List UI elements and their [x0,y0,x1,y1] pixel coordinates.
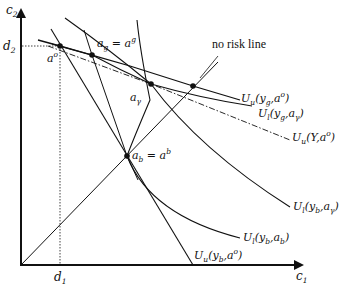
no-risk-line-pointer [200,56,218,78]
label-Ul-yb-ab: Ul(yb,ab) [243,232,289,243]
x-axis-label: c1 [296,270,308,282]
y-axis-label: c2 [6,4,18,16]
label-Uu-Y-ao: Uu(Y,ao) [292,132,335,143]
no-risk-line-label: no risk line [212,38,266,50]
no-risk-line [21,62,218,265]
diagram-graphics [0,0,342,290]
point-a-b [124,153,130,159]
indifference-curve-diagram: c2 c1 d2 d1 ao ag = ag aγ ab = ab no ris… [0,0,342,290]
a-o-label: ao [47,53,58,64]
label-Uu-yb-ao: Uu(yb,ao) [194,250,242,261]
point-a-g [89,52,95,58]
point-no-risk-Uu [190,83,196,89]
curve-Uu-yb-ao [51,29,193,265]
point-a-gamma [148,81,154,87]
label-Ul-yb-agamma: Ul(yb,aγ) [293,201,339,212]
curve-Ul-yb-ab [127,20,240,238]
label-Ul-yg-agamma: Ul(yg,aγ) [258,108,304,119]
label-Uu-yg-ao: Uu(yg,ao) [241,93,289,104]
a-b-label: ab = ab [132,150,171,161]
point-a-o [57,43,63,49]
d2-label: d2 [3,40,15,52]
a-g-label: ag = ag [97,38,136,49]
d1-label: d1 [54,271,66,283]
curve-Ul-yg-agamma [52,44,252,106]
a-gamma-label: aγ [130,92,141,103]
